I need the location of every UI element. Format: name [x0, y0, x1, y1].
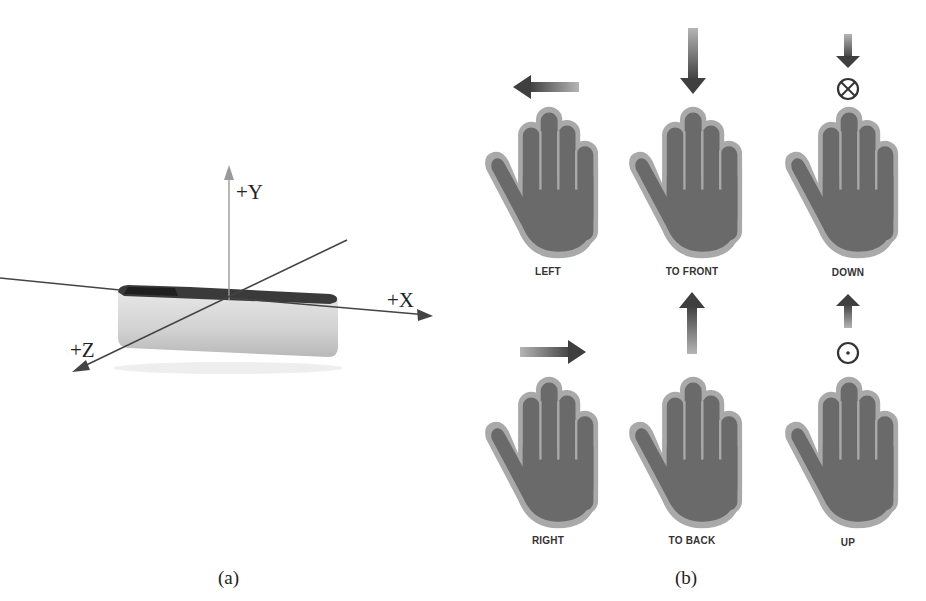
arrow-up-icon	[677, 290, 707, 356]
gesture-label: UP	[783, 537, 913, 548]
sensor-device-icon	[113, 285, 343, 374]
gesture-label: TO FRONT	[627, 266, 757, 277]
gesture-label: DOWN	[783, 267, 913, 278]
hand-icon	[781, 103, 906, 263]
panel-b-caption: (b)	[675, 567, 697, 589]
hand-icon	[481, 103, 606, 263]
arrow-down-icon	[678, 28, 708, 98]
panel-a-coordinate-system: +Y +X +Z (a)	[0, 0, 463, 601]
x-axis-label: +X	[387, 288, 414, 313]
panel-b-gestures: LEFT TO FRONT DOWN RIGHT	[463, 0, 926, 601]
hand-icon	[481, 373, 606, 533]
gesture-label: RIGHT	[483, 535, 613, 546]
cross-circle-icon	[835, 76, 861, 102]
hand-icon	[625, 103, 750, 263]
y-axis-label: +Y	[236, 180, 263, 205]
hand-icon	[625, 373, 750, 533]
arrow-right-icon	[518, 337, 598, 367]
arrow-up-icon	[833, 292, 863, 332]
panel-a-caption: (a)	[218, 567, 239, 589]
gesture-label: LEFT	[483, 266, 613, 277]
arrow-left-icon	[513, 72, 593, 102]
gesture-label: TO BACK	[627, 535, 757, 546]
arrow-down-icon	[833, 34, 863, 74]
dot-circle-icon	[835, 340, 861, 366]
hand-icon	[781, 373, 906, 533]
z-axis-label: +Z	[70, 338, 95, 363]
